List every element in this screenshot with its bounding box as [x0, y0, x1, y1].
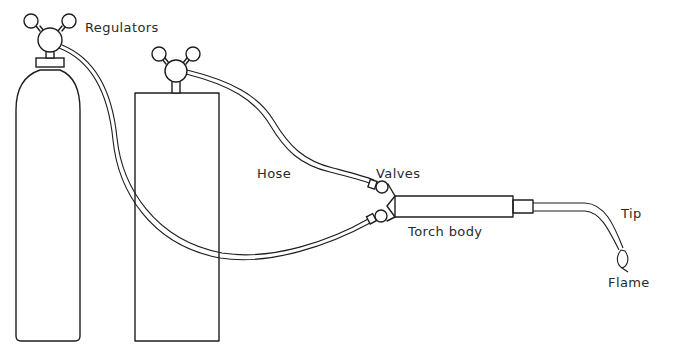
cylinder-box [135, 93, 219, 341]
hose-1 [59, 45, 372, 260]
cylinder-neck [36, 58, 64, 67]
welding-diagram [0, 0, 681, 351]
regulator-right [152, 47, 200, 93]
regulator-body [165, 60, 187, 82]
label-tip: Tip [621, 206, 642, 221]
torch-fitting [513, 200, 533, 213]
label-valves: Valves [376, 166, 420, 181]
cylinder-tall [16, 58, 80, 341]
tip [533, 203, 623, 250]
flame-icon [617, 250, 628, 272]
valve-upper [376, 181, 388, 193]
label-regulators: Regulators [85, 20, 159, 35]
valve-lower [375, 210, 387, 222]
gauge-icon [62, 14, 76, 28]
gauge-icon [24, 14, 38, 28]
gauge-icon [152, 47, 166, 61]
label-torch-body: Torch body [408, 224, 482, 239]
gauge-icon [186, 47, 200, 61]
torch-body [395, 196, 533, 217]
valves [366, 179, 395, 224]
regulator-body [38, 28, 62, 52]
label-hose: Hose [257, 166, 291, 181]
regulator-left [24, 14, 76, 58]
label-flame: Flame [608, 275, 650, 290]
